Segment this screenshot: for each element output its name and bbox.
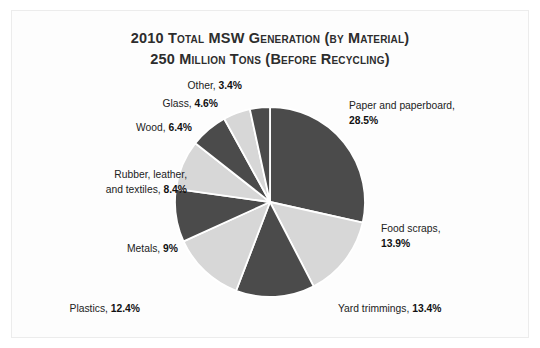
label-other-value: 3.4% [219,80,242,91]
label-metals-name: Metals, [127,243,160,254]
label-plastics-value: 12.4% [111,303,140,314]
label-rubber-line2: and textiles, [106,184,161,195]
label-other: Other, 3.4% [188,79,242,94]
label-wood: Wood, 6.4% [136,121,192,136]
label-rubber-value: 8.4% [164,184,187,195]
label-wood-name: Wood, [136,122,166,133]
pie-slices: Paper and paperboard 28.5%Food scraps 13… [175,107,365,297]
label-yard-name: Yard trimmings, [338,303,409,314]
label-paper-value: 28.5% [349,115,378,126]
chart-figure: 2010 Total MSW Generation (by Material) … [0,0,540,348]
pie-svg: Paper and paperboard 28.5%Food scraps 13… [0,0,540,348]
label-metals: Metals, 9% [127,242,178,257]
pie-chart: Paper and paperboard 28.5%Food scraps 13… [0,0,540,348]
label-glass-name: Glass, [162,98,191,109]
label-paper-name: Paper and paperboard, [349,100,455,111]
label-rubber-leather-textiles: Rubber, leather, and textiles, 8.4% [106,168,187,197]
label-wood-value: 6.4% [169,122,192,133]
label-food-value: 13.9% [381,238,410,249]
label-food-scraps: Food scraps, 13.9% [381,222,441,251]
label-glass: Glass, 4.6% [162,97,218,112]
label-glass-value: 4.6% [195,98,218,109]
label-rubber-line1: Rubber, leather, [114,169,187,180]
label-yard-trimmings: Yard trimmings, 13.4% [338,302,441,317]
label-paper-and-paperboard: Paper and paperboard, 28.5% [349,99,455,128]
label-plastics-name: Plastics, [70,303,108,314]
label-yard-value: 13.4% [412,303,441,314]
label-other-name: Other, [188,80,216,91]
label-food-name: Food scraps, [381,223,441,234]
label-metals-value: 9% [163,243,178,254]
label-plastics: Plastics, 12.4% [70,302,140,317]
